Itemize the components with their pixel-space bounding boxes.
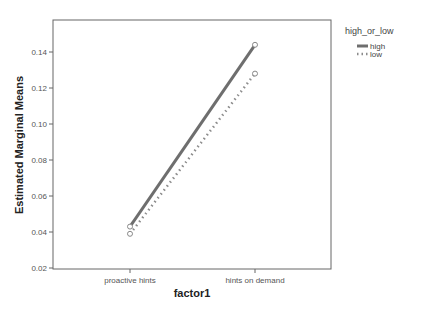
series-low-point — [128, 231, 133, 236]
y-tick-label: 0.02 — [31, 264, 47, 273]
y-tick-label: 0.14 — [31, 48, 47, 57]
y-axis: 0.020.040.060.080.100.120.14 — [31, 48, 53, 273]
y-tick-label: 0.12 — [31, 84, 47, 93]
x-tick-label: proactive hints — [104, 276, 156, 285]
series-low-point — [253, 71, 258, 76]
y-tick-label: 0.06 — [31, 192, 47, 201]
series-high-point — [253, 42, 258, 47]
chart: 0.020.040.060.080.100.120.14 proactive h… — [0, 0, 423, 314]
legend-title: high_or_low — [345, 26, 394, 36]
x-axis-label: factor1 — [174, 287, 211, 299]
legend-low-label: low — [370, 50, 382, 59]
series-high-point — [128, 224, 133, 229]
y-tick-label: 0.10 — [31, 120, 47, 129]
plot-frame — [53, 20, 331, 269]
y-tick-label: 0.04 — [31, 228, 47, 237]
legend: high_or_low high low — [345, 26, 394, 59]
x-axis: proactive hintshints on demand — [104, 269, 284, 285]
y-tick-label: 0.08 — [31, 156, 47, 165]
y-axis-label: Estimated Marginal Means — [13, 76, 25, 214]
x-tick-label: hints on demand — [225, 276, 284, 285]
